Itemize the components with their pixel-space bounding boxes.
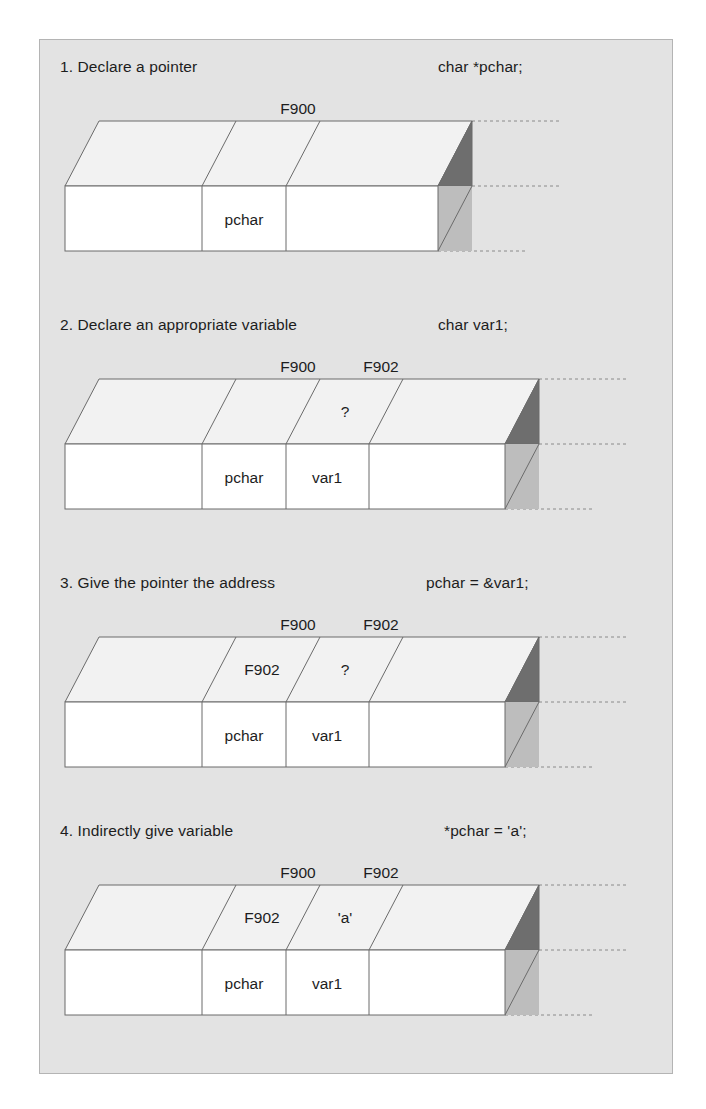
panel-give-pointer-address: 3. Give the pointer the address pchar = … bbox=[40, 574, 674, 824]
top-cell-label-4-1: F902 bbox=[244, 909, 279, 926]
panel-declare-variable: 2. Declare an appropriate variable char … bbox=[40, 316, 674, 566]
address-label-f902-2: F902 bbox=[363, 358, 398, 375]
memory-diagram-3: F900 F902 pchar var1 F902 ? bbox=[40, 574, 674, 824]
memory-diagram-4: F900 F902 pchar var1 F902 'a' bbox=[40, 822, 674, 1072]
address-label-f902-4: F902 bbox=[363, 864, 398, 881]
top-face-1 bbox=[65, 121, 472, 186]
top-face-2 bbox=[65, 379, 539, 444]
front-cell-label-1: pchar bbox=[225, 211, 264, 228]
front-face-3 bbox=[65, 702, 505, 767]
address-label-f900-4: F900 bbox=[280, 864, 316, 881]
memory-diagram-2: F900 F902 pchar var1 ? bbox=[40, 316, 674, 566]
top-cell-label-4-2: 'a' bbox=[338, 909, 353, 926]
address-label-f900-2: F900 bbox=[280, 358, 316, 375]
top-cell-label-2-2: ? bbox=[341, 403, 350, 420]
address-label-f900-3: F900 bbox=[280, 616, 316, 633]
front-face-4 bbox=[65, 950, 505, 1015]
top-face-3 bbox=[65, 637, 539, 702]
front-cell-label-4-2: var1 bbox=[312, 975, 342, 992]
top-cell-label-3-1: F902 bbox=[244, 661, 279, 678]
front-face-2 bbox=[65, 444, 505, 509]
figure-frame: 1. Declare a pointer char *pchar; F900 bbox=[39, 39, 673, 1074]
front-cell-label-3-2: var1 bbox=[312, 727, 342, 744]
front-cell-label-4-1: pchar bbox=[225, 975, 264, 992]
front-cell-label-3-1: pchar bbox=[225, 727, 264, 744]
address-label-f900: F900 bbox=[280, 100, 316, 117]
address-label-f902-3: F902 bbox=[363, 616, 398, 633]
front-cell-label-2-2: var1 bbox=[312, 469, 342, 486]
panel-indirectly-give-variable: 4. Indirectly give variable *pchar = 'a'… bbox=[40, 822, 674, 1072]
top-cell-label-3-2: ? bbox=[341, 661, 350, 678]
front-cell-label-2-1: pchar bbox=[225, 469, 264, 486]
memory-diagram-1: F900 pchar bbox=[40, 58, 674, 308]
panel-declare-pointer: 1. Declare a pointer char *pchar; F900 bbox=[40, 58, 674, 308]
top-face-4 bbox=[65, 885, 539, 950]
